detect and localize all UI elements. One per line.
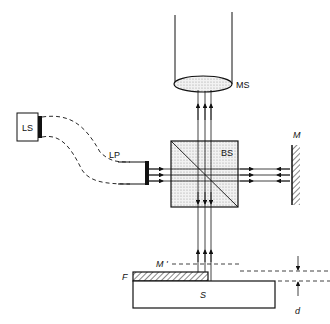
light-source-label: LS <box>22 123 33 133</box>
beam-splitter: BS <box>171 141 238 207</box>
virtual-mirror-label: M ' <box>156 259 168 269</box>
substrate-label: S <box>200 290 206 300</box>
light-pipe-label: LP <box>109 150 120 160</box>
light-source: LS <box>17 113 42 141</box>
interferometer-diagram: LS LP MS BS <box>0 0 330 324</box>
substrate: S <box>133 281 275 308</box>
light-pipe-end <box>118 161 149 185</box>
mirror: M <box>292 130 301 205</box>
mirror-label: M <box>293 130 301 140</box>
microscope-label: MS <box>236 80 250 90</box>
film-label: F <box>122 272 128 282</box>
beam-splitter-label: BS <box>221 148 233 158</box>
microscope: MS <box>174 12 250 92</box>
thickness-label: d <box>295 306 301 316</box>
